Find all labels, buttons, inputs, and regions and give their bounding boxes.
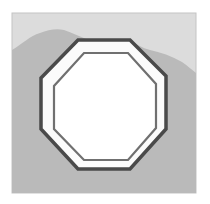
inner-octagon	[54, 53, 156, 160]
octagon-stop-icon	[0, 0, 210, 204]
